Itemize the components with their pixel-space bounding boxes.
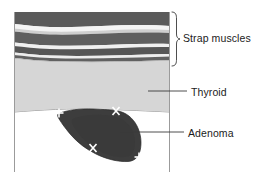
label-adenoma: Adenoma [188, 128, 234, 139]
label-strap-muscles: Strap muscles [183, 33, 251, 44]
muscle-band-1 [14, 12, 170, 27]
label-thyroid: Thyroid [191, 87, 227, 98]
ultrasound-image-area [14, 12, 170, 172]
thyroid-parenchyma [14, 59, 170, 113]
